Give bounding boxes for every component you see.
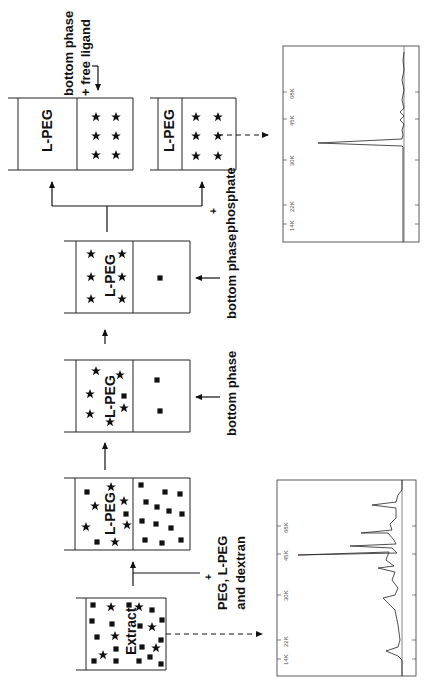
particles-box-d (85, 366, 162, 426)
chart1-tick-22k: 22K (289, 201, 295, 212)
particles-box-c (86, 249, 162, 303)
chart1-tick-68k: 68K (289, 88, 295, 99)
vessel-final-ligand (8, 98, 133, 170)
chart-extract (277, 480, 416, 676)
chart2-tick-22k: 22K (283, 636, 289, 647)
label-phosphate-plus: + (207, 208, 221, 214)
particles-box-b (191, 112, 223, 160)
chart1-tick-14k: 14K (289, 220, 295, 231)
vessel-wash-1 (64, 360, 190, 432)
label-lpeg-box-b: L-PEG (162, 109, 176, 152)
label-bottom-phase-1: bottom phase (225, 234, 239, 319)
label-lpeg-box-e: L-PEG (103, 492, 117, 535)
label-free-ligand-1: bottom phase (62, 11, 76, 96)
label-lpeg-box-d: L-PEG (103, 375, 117, 418)
chart2-tick-30k: 30K (283, 590, 289, 601)
label-add-polymers-1: PEG, L-PEG (216, 536, 230, 610)
label-free-ligand-2: + free ligand (79, 19, 93, 96)
label-lpeg-box-c: L-PEG (103, 254, 117, 297)
label-phosphate: phosphate (224, 167, 238, 233)
vessel-wash-2 (64, 241, 190, 313)
chart1-tick-30k: 30K (289, 155, 295, 166)
label-lpeg-box-a: L-PEG (40, 109, 54, 152)
particles-box-a (91, 112, 121, 159)
label-extract: Extract (124, 608, 138, 655)
label-bottom-phase-2: bottom phase (225, 351, 239, 436)
label-add-polymers-2: and dextran (234, 536, 248, 610)
chart-purified (283, 46, 419, 242)
chart2-tick-45k: 45K (283, 550, 289, 561)
chart1-tick-45k: 45K (289, 115, 295, 126)
chart2-tick-14k: 14K (283, 654, 289, 665)
diagram-canvas: bottom phase + free ligand L-PEG L-PEG L… (0, 0, 429, 684)
label-add-plus: + (202, 574, 216, 580)
chart2-tick-68k: 68K (283, 522, 289, 533)
